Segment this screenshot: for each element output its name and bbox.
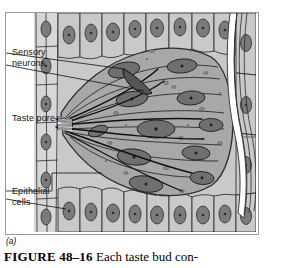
label-sensory-neurons: Sensory neurons [12, 47, 46, 69]
figure-caption-text: Each taste bud con- [96, 249, 198, 264]
label-epithelial-cells: Epithelial cells [12, 186, 50, 208]
label-taste-pore: Taste pore — [12, 113, 67, 124]
panel-letter-a: (a) [6, 236, 16, 246]
figure-number: FIGURE 48–16 [4, 249, 93, 264]
label-taste-pore-text: Taste pore [12, 113, 55, 123]
figure-caption: FIGURE 48–16 Each taste bud con- [4, 249, 299, 264]
figure-page: Sensory neurons Taste pore — Epithelial … [0, 0, 302, 268]
